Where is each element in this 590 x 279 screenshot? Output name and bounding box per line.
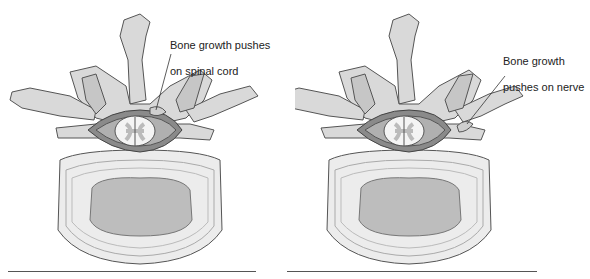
vertebra-panel-left: Bone growth pushes on spinal cord [0,0,295,279]
baseline-divider [287,271,537,272]
annotation-label: Bone growth pushes on spinal cord [170,26,270,78]
annotation-line-1: Bone growth [503,55,565,67]
vertebra-panel-right: Bone growth pushes on nerve [295,0,590,279]
annotation-line-1: Bone growth pushes [170,39,270,51]
annotation-label: Bone growth pushes on nerve [503,42,584,94]
vertebral-body-core [90,178,192,236]
annotation-line-2: on spinal cord [170,65,239,77]
baseline-divider [8,271,256,272]
vertebral-body-core [359,178,461,236]
annotation-line-2: pushes on nerve [503,81,584,93]
